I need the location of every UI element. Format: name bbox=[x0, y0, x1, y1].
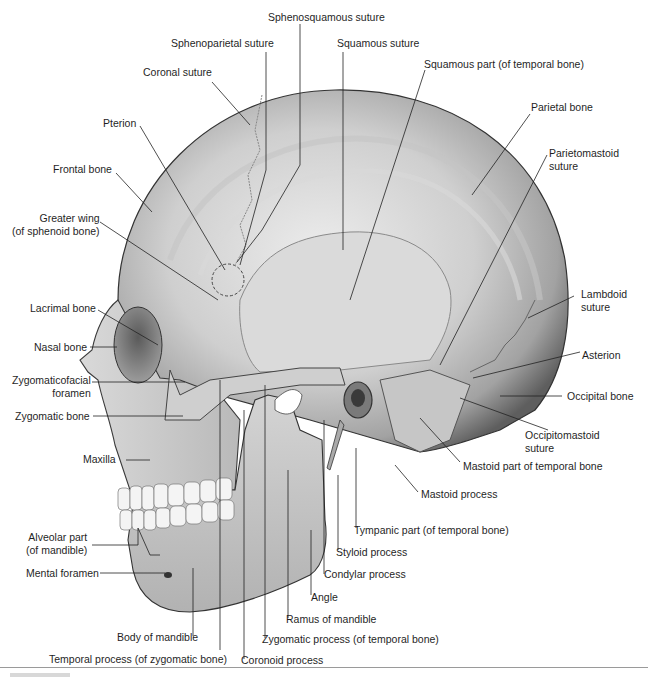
label-zygomatic-process: Zygomatic process (of temporal bone) bbox=[262, 633, 439, 646]
label-mastoid-process: Mastoid process bbox=[421, 488, 497, 501]
skull-lateral-diagram: Sphenosquamous suture Sphenoparietal sut… bbox=[0, 0, 648, 679]
label-coronal-suture: Coronal suture bbox=[143, 66, 212, 79]
label-pterion: Pterion bbox=[103, 117, 136, 130]
caption-divider bbox=[0, 667, 648, 668]
label-maxilla: Maxilla bbox=[83, 453, 116, 466]
label-squamous-suture: Squamous suture bbox=[337, 37, 419, 50]
orbit-shape bbox=[114, 307, 162, 383]
label-parietomastoid-suture: Parietomastoidsuture bbox=[549, 147, 619, 173]
label-occipital-bone: Occipital bone bbox=[567, 390, 634, 403]
label-temporal-process: Temporal process (of zygomatic bone) bbox=[49, 653, 227, 666]
label-angle: Angle bbox=[311, 591, 338, 604]
label-parietal-bone: Parietal bone bbox=[531, 101, 593, 114]
label-asterion: Asterion bbox=[582, 349, 621, 362]
label-mental-foramen: Mental foramen bbox=[26, 567, 99, 580]
label-mastoid-part: Mastoid part of temporal bone bbox=[463, 460, 603, 473]
label-body-of-mandible: Body of mandible bbox=[117, 631, 198, 644]
label-squamous-part: Squamous part (of temporal bone) bbox=[424, 58, 584, 71]
label-styloid-process: Styloid process bbox=[336, 546, 407, 559]
label-lambdoid-suture: Lambdoidsuture bbox=[581, 288, 627, 314]
label-nasal-bone: Nasal bone bbox=[34, 341, 87, 354]
label-sphenosquamous-suture: Sphenosquamous suture bbox=[268, 11, 385, 24]
label-lacrimal-bone: Lacrimal bone bbox=[30, 302, 96, 315]
label-occipitomastoid-suture: Occipitomastoidsuture bbox=[525, 429, 600, 455]
label-zygomatic-bone: Zygomatic bone bbox=[15, 410, 90, 423]
label-tympanic-part: Tympanic part (of temporal bone) bbox=[354, 524, 509, 537]
label-ramus-of-mandible: Ramus of mandible bbox=[286, 613, 376, 626]
label-alveolar-part: Alveolar part(of mandible) bbox=[26, 531, 87, 557]
label-greater-wing: Greater wing(of sphenoid bone) bbox=[12, 212, 100, 238]
label-frontal-bone: Frontal bone bbox=[53, 163, 112, 176]
label-coronoid-process: Coronoid process bbox=[241, 654, 323, 667]
caption-fragment bbox=[10, 673, 70, 677]
label-zygomaticofacial-foramen: Zygomaticofacialforamen bbox=[12, 374, 91, 400]
label-condylar-process: Condylar process bbox=[324, 568, 406, 581]
label-sphenoparietal-suture: Sphenoparietal suture bbox=[171, 37, 274, 50]
